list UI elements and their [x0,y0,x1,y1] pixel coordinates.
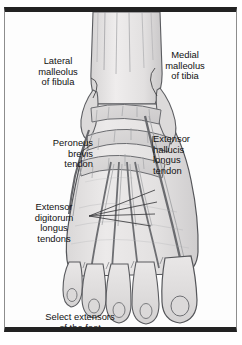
label-lateral-malleolus-of-fibula: Lateral malleolus of fibula [21,56,95,88]
toe-5 [63,262,82,307]
label-medial-malleolus-of-tibia: Medial malleolus of tibia [148,50,222,82]
label-extensor-hallucis-longus-tendon: Extensor hallucis longus tendon [153,134,225,176]
illustration-plate: Lateral malleolus of fibula Medial malle… [5,12,236,327]
label-peroneus-brevis-tendon: Peroneus brevis tendon [13,138,93,170]
label-extensor-digitorum-longus-tendons: Extensor digitorum longus tendons [13,202,95,244]
figure-title: FOOT TENDONS [0,0,242,2]
figure-caption: Select extensors of the foot [15,312,145,332]
figure-plate: FOOT TENDONS [0,0,242,345]
toe-1-hallux [162,256,197,323]
figure-title-strip: FOOT TENDONS [0,0,242,7]
illustration-frame: Lateral malleolus of fibula Medial malle… [4,7,237,332]
toe-4 [82,264,106,318]
